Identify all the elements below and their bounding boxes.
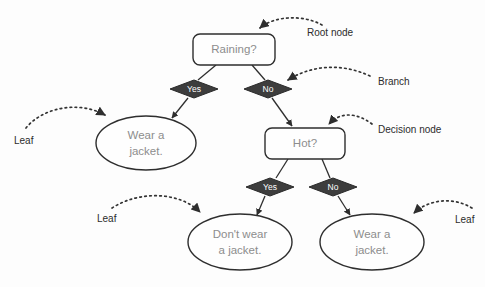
branch-root-no[interactable]: No xyxy=(244,80,292,98)
decision-tree-diagram: Raining? Yes No Wear a jacket. Hot? Yes xyxy=(0,0,485,287)
connector-root-yes xyxy=(198,65,216,80)
diagram-canvas: Raining? Yes No Wear a jacket. Hot? Yes xyxy=(0,0,485,287)
anno-curve-branch xyxy=(288,67,370,80)
anno-curve-leaf-bottom-left xyxy=(112,196,200,212)
node-leaf-bottom-left-shape xyxy=(188,214,292,270)
node-hot[interactable]: Hot? xyxy=(265,128,345,159)
connector-no-hot xyxy=(272,98,292,126)
connector-yes-leafleft xyxy=(172,98,188,118)
connector-no-leafbottomright xyxy=(338,196,350,215)
branch-root-no-label: No xyxy=(263,84,274,94)
node-leaf-bottom-left-label-line1: Don't wear xyxy=(213,228,268,240)
annotation-branch: Branch xyxy=(378,76,410,87)
node-leaf-bottom-right-shape xyxy=(320,214,424,270)
node-leaf-bottom-right-label-line1: Wear a xyxy=(354,228,391,240)
annotation-root-node: Root node xyxy=(307,27,354,38)
branch-hot-no-label: No xyxy=(328,182,339,192)
node-root-raining[interactable]: Raining? xyxy=(193,34,275,65)
node-hot-label: Hot? xyxy=(293,137,317,149)
branch-hot-no[interactable]: No xyxy=(309,178,357,196)
connector-yes-leafbottomleft xyxy=(257,196,265,215)
node-leaf-bottom-left-label-line2: a jacket. xyxy=(219,244,262,256)
node-leaf-bottom-right[interactable]: Wear a jacket. xyxy=(320,214,424,270)
annotation-decision-node: Decision node xyxy=(378,124,442,135)
annotation-leaf-bottom-left: Leaf xyxy=(97,213,117,224)
node-leaf-bottom-left[interactable]: Don't wear a jacket. xyxy=(188,214,292,270)
node-leaf-bottom-right-label-line2: jacket. xyxy=(354,244,388,256)
node-leaf-left-label-line1: Wear a xyxy=(128,129,165,141)
node-root-label: Raining? xyxy=(211,43,256,55)
connector-hot-no xyxy=(322,159,330,178)
node-leaf-left[interactable]: Wear a jacket. xyxy=(96,116,196,170)
annotation-leaf-bottom-right: Leaf xyxy=(455,214,475,225)
anno-curve-leaf-bottom-right xyxy=(414,201,472,213)
branch-root-yes-label: Yes xyxy=(187,84,201,94)
anno-curve-leaf-left xyxy=(26,107,105,128)
node-leaf-left-shape xyxy=(96,116,196,170)
annotation-leaf-left: Leaf xyxy=(14,135,34,146)
branch-hot-yes-label: Yes xyxy=(263,182,277,192)
connector-hot-yes xyxy=(276,159,288,178)
branch-root-yes[interactable]: Yes xyxy=(170,80,218,98)
node-leaf-left-label-line2: jacket. xyxy=(128,145,162,157)
connector-root-no xyxy=(252,65,265,80)
anno-curve-decision-node xyxy=(329,115,372,124)
branch-hot-yes[interactable]: Yes xyxy=(246,178,294,196)
